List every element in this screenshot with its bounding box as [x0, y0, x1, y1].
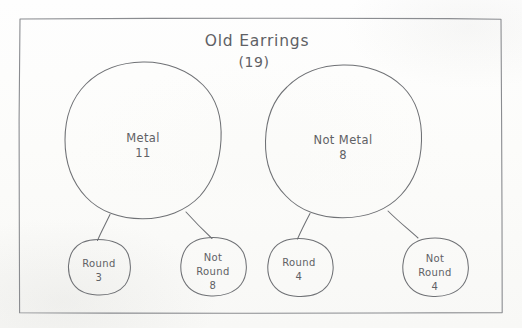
label-metal: Metal — [126, 131, 160, 145]
label-metal-not-round-line1: Not — [204, 252, 223, 263]
label-not-metal-not-round-line2: Round — [418, 267, 452, 278]
label-metal-not-round-line2: Round — [196, 266, 230, 277]
connector-not-metal-to-round — [298, 214, 311, 240]
count-metal-not-round: 8 — [210, 280, 217, 291]
tree-diagram: Metal 11 Round 3 Not Round 8 Not Metal 8… — [0, 0, 522, 328]
connector-not-metal-to-not-round — [388, 211, 418, 238]
count-metal: 11 — [135, 146, 150, 160]
count-metal-round: 3 — [96, 272, 103, 283]
label-not-metal-not-round-line1: Not — [426, 253, 445, 264]
label-not-metal: Not Metal — [313, 133, 372, 147]
label-metal-round: Round — [82, 258, 116, 269]
count-not-metal-not-round: 4 — [432, 281, 439, 292]
connector-metal-to-round — [98, 215, 111, 241]
connector-metal-to-not-round — [186, 212, 212, 239]
label-not-metal-round: Round — [282, 257, 316, 268]
worksheet-page: Metal 11 Round 3 Not Round 8 Not Metal 8… — [0, 0, 522, 328]
count-not-metal-round: 4 — [296, 271, 303, 282]
diagram-title: Old Earrings — [205, 32, 310, 50]
count-not-metal: 8 — [339, 148, 347, 162]
diagram-total: (19) — [238, 54, 269, 70]
